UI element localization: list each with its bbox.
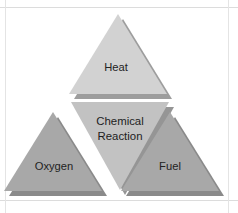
oxygen-label: Oxygen bbox=[35, 160, 74, 172]
chemical-reaction-label-line-1: Chemical bbox=[96, 115, 143, 127]
heat-label: Heat bbox=[104, 61, 129, 73]
chemical-reaction-label-line-2: Reaction bbox=[98, 130, 143, 142]
diagram-canvas: Chemical Reaction Heat Oxygen Fuel bbox=[0, 0, 238, 213]
fire-triangle-diagram: Chemical Reaction Heat Oxygen Fuel bbox=[0, 0, 238, 213]
fuel-label: Fuel bbox=[159, 160, 181, 172]
